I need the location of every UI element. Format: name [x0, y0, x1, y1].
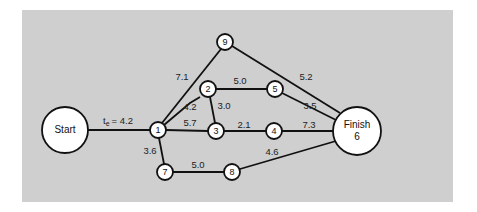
node-9: 9: [217, 34, 233, 50]
edge-label-2-5: 5.0: [233, 75, 246, 86]
edge-label-8-finish: 4.6: [265, 146, 278, 157]
edge-label-7-8: 5.0: [191, 159, 204, 170]
edge-label-1-9: 7.1: [175, 71, 188, 82]
svg-text:3: 3: [213, 126, 218, 136]
node-2: 2: [200, 81, 216, 97]
svg-text:Finish: Finish: [344, 119, 371, 130]
svg-text:4: 4: [271, 126, 276, 136]
edge-label-4-finish: 7.3: [302, 119, 315, 130]
edge-1-3: [166, 130, 208, 131]
pert-network: te= 4.2 7.1 4.2 5.7 3.6 5.0 3.0 2.1 7.3 …: [0, 0, 477, 212]
node-7: 7: [157, 164, 173, 180]
svg-text:5: 5: [272, 84, 277, 94]
edge-label-1-2: 4.2: [183, 101, 196, 112]
node-4: 4: [266, 123, 282, 139]
edge-label-2-3: 3.0: [217, 100, 230, 111]
edge-label-5-finish: 3.5: [303, 100, 316, 111]
node-3: 3: [208, 123, 224, 139]
edge-label-1-7: 3.6: [143, 145, 156, 156]
svg-text:6: 6: [354, 131, 360, 142]
svg-text:2: 2: [205, 84, 210, 94]
node-1: 1: [150, 122, 166, 138]
edge-8-finish: [240, 141, 336, 169]
svg-text:1: 1: [155, 125, 160, 135]
svg-text:9: 9: [222, 37, 227, 47]
edge-label-3-4: 2.1: [237, 119, 250, 130]
start-node: Start: [42, 107, 88, 153]
edge-9-finish: [232, 46, 340, 113]
edge-label-start-1: te= 4.2: [103, 115, 133, 127]
node-8: 8: [224, 164, 240, 180]
svg-text:Start: Start: [54, 124, 75, 135]
edge-label-9-finish: 5.2: [299, 71, 312, 82]
edge-2-3: [210, 97, 215, 123]
finish-node: Finish 6: [333, 107, 381, 155]
svg-text:7: 7: [162, 167, 167, 177]
edge-label-1-3: 5.7: [183, 117, 196, 128]
svg-text:8: 8: [229, 167, 234, 177]
edge-1-7: [159, 138, 164, 164]
node-5: 5: [267, 81, 283, 97]
